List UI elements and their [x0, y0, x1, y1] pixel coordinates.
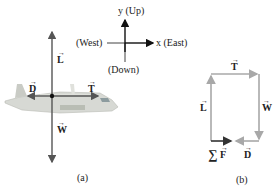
y-axis-label: y (Up)	[118, 6, 144, 16]
caption-b: (b)	[236, 174, 248, 185]
down-label: (Down)	[108, 65, 139, 75]
label-drag: →D	[29, 84, 36, 94]
label-b-thrust: →T	[231, 62, 238, 72]
x-axis-label: x (East)	[156, 38, 187, 48]
label-lift: →L	[57, 55, 64, 65]
label-b-drag: →D	[244, 150, 251, 160]
label-b-sum-symbol: ∑	[208, 148, 217, 161]
panel-b-vector-polygon	[211, 74, 259, 141]
label-b-lift: →L	[200, 103, 207, 113]
caption-a: (a)	[77, 172, 88, 183]
center-of-mass-dot	[50, 94, 54, 98]
coordinate-axes	[107, 20, 153, 62]
airplane-illustration	[5, 84, 118, 113]
west-label: (West)	[76, 38, 102, 48]
diagram-canvas	[0, 0, 275, 192]
label-weight: →W	[57, 125, 67, 135]
label-b-weight: →W	[262, 103, 272, 113]
label-thrust: →T	[88, 84, 95, 94]
label-b-net-force: →F	[220, 150, 226, 160]
